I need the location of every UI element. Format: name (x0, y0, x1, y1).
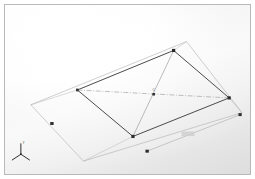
dimension-value-plate (182, 132, 195, 137)
construction-plane-outline[interactable] (31, 42, 242, 162)
vertex-left-marker[interactable] (76, 89, 79, 92)
viewport-root: C Y (0, 0, 255, 179)
marker-bottom-edge[interactable] (145, 150, 148, 153)
viewport-frame: C Y (4, 4, 251, 175)
triad-label-y: Y (22, 141, 25, 145)
vertex-top-marker[interactable] (172, 49, 175, 52)
coordinate-triad[interactable]: Y (12, 141, 30, 160)
triad-axis-z (21, 154, 30, 160)
triad-axis-x (12, 154, 21, 160)
marker-left-edge[interactable] (50, 122, 53, 125)
marker-right-edge[interactable] (238, 113, 241, 116)
vertex-bottom-marker[interactable] (131, 135, 134, 138)
vertex-right-marker[interactable] (228, 96, 231, 99)
triad-origin-dot (20, 153, 22, 155)
center-point-marker[interactable] (152, 93, 155, 96)
construction-plane[interactable] (31, 42, 242, 162)
model-canvas[interactable]: C Y (5, 5, 250, 174)
